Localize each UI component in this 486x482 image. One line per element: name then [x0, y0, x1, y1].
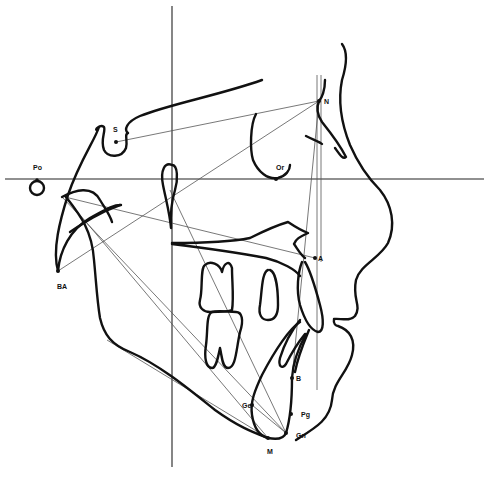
- landmark-me-point: [266, 436, 270, 440]
- upper-premolar-outline: [259, 270, 278, 320]
- pterygomaxillary-fissure: [162, 164, 177, 228]
- landmark-gn-point: [284, 431, 288, 435]
- landmark-or-point: [274, 177, 278, 181]
- label-n: N: [324, 98, 329, 105]
- palatal-plane-outline: [172, 222, 308, 276]
- landmark-labels: S N Po Or BA A B Pg Gn M Ge: [33, 98, 329, 455]
- landmark-a-point: [313, 256, 317, 260]
- landmark-ba-point: [56, 269, 60, 273]
- landmark-b-point: [290, 376, 294, 380]
- label-or: Or: [276, 164, 284, 171]
- soft-tissue-profile: [296, 44, 392, 440]
- label-ba: BA: [57, 283, 67, 290]
- label-pg: Pg: [301, 411, 310, 419]
- landmark-s-point: [114, 140, 118, 144]
- porion-circle: [30, 181, 44, 195]
- label-s: S: [113, 126, 118, 133]
- upper-incisor-outline: [298, 262, 323, 332]
- label-go: Ge: [242, 402, 251, 409]
- label-b: B: [296, 375, 301, 382]
- landmark-n-point: [317, 99, 321, 103]
- landmark-pg-point: [289, 412, 293, 416]
- label-gn: Gn: [296, 432, 306, 439]
- lower-molar-outline: [205, 311, 242, 368]
- label-po: Po: [33, 164, 42, 171]
- airway-marker: [70, 205, 120, 232]
- ar-me-line: [65, 197, 268, 438]
- sn-line: [116, 101, 319, 142]
- landmark-po-point: [35, 178, 39, 182]
- label-a: A: [318, 255, 323, 262]
- landmarks: [35, 99, 321, 440]
- anatomical-outline: [30, 44, 392, 440]
- cephalometric-tracing: S N Po Or BA A B Pg Gn M Ge: [0, 0, 486, 482]
- label-me: M: [267, 448, 273, 455]
